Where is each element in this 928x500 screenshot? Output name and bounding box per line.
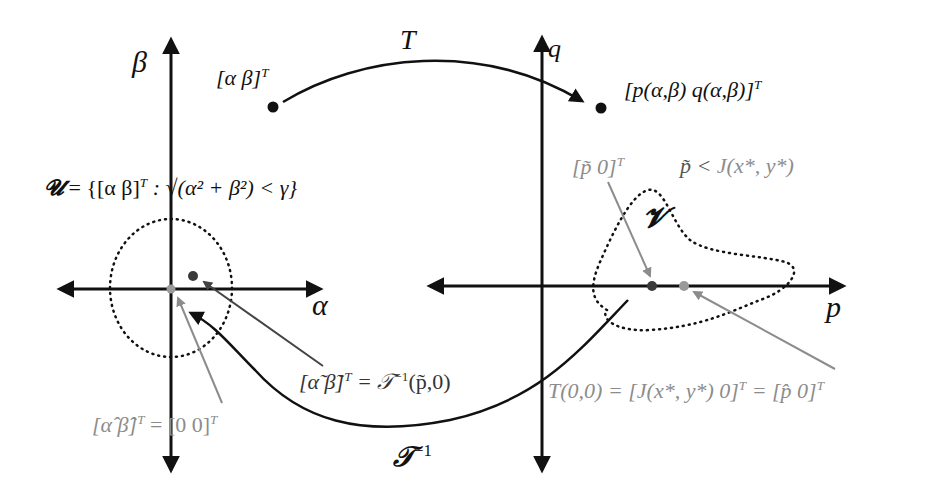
- point-hat-origin: [167, 285, 176, 294]
- hat-origin-rhs: = [0 0]: [150, 412, 210, 437]
- inverse-map-symbol: 𝒯: [393, 441, 414, 472]
- p-axis-label: p: [826, 292, 841, 322]
- tilde-p-sup: T: [617, 154, 624, 169]
- region-v-label: 𝓥: [643, 204, 666, 232]
- condition-lhs: p̃ <: [680, 153, 711, 178]
- point-hat-p: [679, 281, 689, 291]
- pointer-hat-origin: [178, 298, 222, 403]
- pointer-hat-p: [694, 292, 835, 369]
- inverse-map-sup: −1: [414, 441, 432, 460]
- t00-lhs: T(0,0) = [J(x*, y*) 0]: [548, 378, 739, 403]
- condition-rhs: J(x*, y*): [717, 153, 794, 178]
- t00-rhs-sup: T: [817, 378, 824, 393]
- point-alpha-beta-label: [α β]T: [216, 66, 268, 89]
- preimage-label: [α̃ β̃]T = 𝒯−1(p̃,0): [299, 370, 451, 393]
- preimage-lhs: [α̃ β̃]: [299, 369, 344, 394]
- region-u-sup: T: [140, 175, 147, 190]
- pointer-tilde-alpha-beta: [204, 282, 323, 366]
- point-tilde-alpha-beta: [188, 271, 198, 281]
- q-axis-label: q: [548, 36, 561, 62]
- image-point-label: [p(α,β) q(α,β)]T: [624, 78, 761, 101]
- preimage-args: (p̃,0): [408, 369, 450, 394]
- preimage-lhs-sup: T: [344, 369, 351, 384]
- tilde-p-text: [p̃ 0]: [572, 154, 617, 179]
- point-alpha-beta-text: [α β]: [216, 65, 261, 90]
- inverse-map-label: 𝒯−1: [393, 443, 432, 471]
- tilde-p-label: [p̃ 0]T: [572, 155, 624, 178]
- t00-label: T(0,0) = [J(x*, y*) 0]T = [p̂ 0]T: [548, 379, 824, 402]
- t00-rhs: = [p̂ 0]: [752, 378, 817, 403]
- hat-origin-label: [α̂ β̂]T = [0 0]T: [92, 413, 217, 436]
- t00-lhs-sup: T: [739, 378, 746, 393]
- region-u-definition: 𝓤 = {[α β]T : √(α² + β²) < γ}: [44, 176, 297, 199]
- hat-origin-rhs-sup: T: [210, 412, 217, 427]
- region-u-set: = {[α β]: [69, 175, 140, 200]
- condition-label: p̃ < J(x*, y*): [680, 155, 794, 177]
- image-point-text: [p(α,β) q(α,β)]: [624, 77, 754, 102]
- image-point-sup: T: [754, 77, 761, 92]
- hat-origin-lhs: [α̂ β̂]: [92, 412, 137, 437]
- preimage-rhs-sup: −1: [394, 369, 408, 384]
- point-alpha-beta: [268, 102, 279, 113]
- left-axes: [60, 40, 320, 470]
- region-u-condition: : √(α² + β²) < γ}: [153, 175, 297, 200]
- region-v-boundary: [593, 190, 794, 330]
- alpha-axis-label: α: [312, 290, 328, 320]
- forward-map-arrow: [283, 61, 582, 102]
- region-u-symbol: 𝓤: [44, 175, 63, 200]
- transpose-sup: T: [261, 65, 268, 80]
- beta-axis-label: β: [132, 47, 147, 77]
- hat-origin-lhs-sup: T: [137, 412, 144, 427]
- point-image-pq: [596, 103, 607, 114]
- point-tilde-p: [647, 281, 657, 291]
- preimage-rhs: = 𝒯: [357, 369, 394, 394]
- forward-map-label: T: [400, 26, 416, 54]
- right-axes: [430, 38, 843, 470]
